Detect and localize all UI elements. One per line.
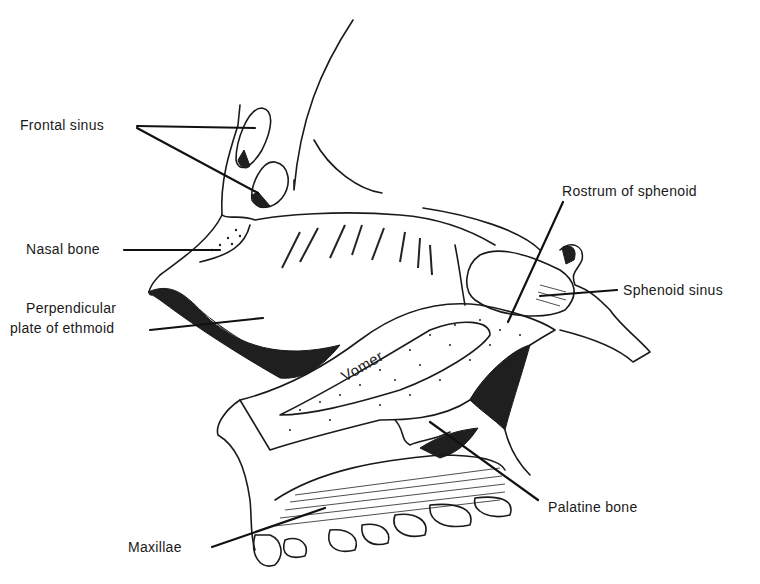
- choana-shadow: [470, 345, 530, 430]
- maxilla-front: [217, 400, 255, 550]
- sphenoid-process: [560, 245, 650, 362]
- label-palatine-bone: Palatine bone: [548, 499, 638, 516]
- cranial-base-curve: [423, 208, 540, 250]
- label-maxillae: Maxillae: [128, 539, 182, 556]
- frontal-sinus-shadow: [238, 150, 250, 168]
- vomer-label: Vomer: [338, 347, 386, 385]
- nasal-bone-outline: [149, 215, 222, 295]
- label-sphenoid-sinus: Sphenoid sinus: [623, 282, 723, 299]
- leader-maxillae: [212, 508, 325, 547]
- label-nasal-bone: Nasal bone: [26, 241, 100, 258]
- label-perpendicular-plate-line2: plate of ethmoid: [10, 320, 114, 337]
- nasal-bone-inner: [200, 225, 250, 262]
- teeth: [254, 497, 511, 566]
- leader-palatine-bone: [430, 422, 538, 500]
- sphenoid-front: [455, 245, 465, 305]
- label-frontal-sinus: Frontal sinus: [20, 117, 104, 134]
- dorsum-sellae: [562, 246, 575, 264]
- nasal-bone-stipple: [211, 229, 241, 251]
- leader-rostrum: [508, 202, 563, 322]
- anatomy-diagram: Vomer: [0, 0, 760, 584]
- cribriform-line: [222, 213, 495, 245]
- frontal-bone-outline: [294, 20, 353, 190]
- nasal-outline: [222, 105, 240, 215]
- label-rostrum-of-sphenoid: Rostrum of sphenoid: [562, 183, 697, 200]
- pterygoid-plate: [505, 430, 530, 475]
- label-perpendicular-plate-line1: Perpendicular: [26, 300, 116, 317]
- frontal-sinus-lower-shadow: [252, 192, 270, 208]
- ethmoid-ridges: [282, 225, 432, 275]
- cranial-inner-curve: [314, 140, 382, 193]
- perpendicular-plate-shadow: [148, 288, 340, 378]
- leader-sphenoid-sinus: [540, 290, 617, 296]
